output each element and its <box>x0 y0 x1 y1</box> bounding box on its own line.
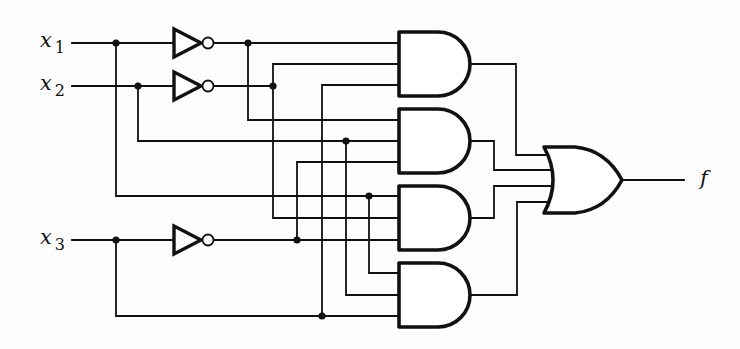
inverter-x2 <box>174 72 214 100</box>
inverter-x3 <box>174 226 214 254</box>
and-gate-4 <box>399 263 470 327</box>
junction-dots <box>112 39 372 319</box>
or-gate <box>544 147 622 213</box>
input-label-x2: x2 <box>40 73 65 99</box>
and-gate-1 <box>399 32 470 96</box>
output-label-f: f <box>700 168 708 189</box>
inverter-x1 <box>174 29 214 57</box>
circuit-wiring <box>0 0 740 349</box>
input-label-x3: x3 <box>40 227 65 253</box>
logic-circuit-diagram: x1 x2 x3 f <box>0 0 740 349</box>
input-label-x1: x1 <box>40 30 65 56</box>
and-gate-2 <box>399 109 470 173</box>
and-gate-3 <box>399 186 470 250</box>
